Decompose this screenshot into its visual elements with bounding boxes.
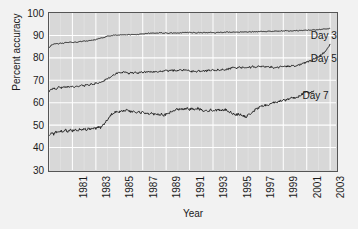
series-line-day-7 (49, 91, 314, 136)
y-tick-80: 80 (18, 52, 44, 64)
annotation-day-3: Day 3 (311, 30, 337, 41)
x-tick-1991: 1991 (195, 176, 207, 210)
x-tick-1999: 1999 (288, 176, 300, 210)
x-tick-1997: 1997 (265, 176, 277, 210)
y-tick-100: 100 (18, 8, 44, 20)
x-tick-1993: 1993 (218, 176, 230, 210)
plot-canvas (49, 13, 336, 170)
annotation-day-5: Day 5 (311, 53, 337, 64)
x-tick-2001: 2001 (312, 176, 324, 210)
x-tick-1987: 1987 (148, 176, 160, 210)
x-tick-1985: 1985 (124, 176, 136, 210)
y-tick-70: 70 (18, 75, 44, 87)
x-tick-2003: 2003 (335, 176, 347, 210)
y-tick-40: 40 (18, 142, 44, 154)
x-tick-1995: 1995 (242, 176, 254, 210)
chart-figure: Percent accuracy 10090807060504030 19811… (0, 0, 358, 229)
x-axis-label: Year (48, 208, 338, 219)
annotation-day-7: Day 7 (303, 90, 329, 101)
y-tick-30: 30 (18, 165, 44, 177)
x-tick-1983: 1983 (101, 176, 113, 210)
x-tick-1989: 1989 (171, 176, 183, 210)
y-tick-50: 50 (18, 120, 44, 132)
gridlines (49, 13, 336, 170)
y-tick-60: 60 (18, 97, 44, 109)
y-tick-90: 90 (18, 30, 44, 42)
x-tick-1981: 1981 (78, 176, 90, 210)
plot-area (48, 12, 338, 172)
